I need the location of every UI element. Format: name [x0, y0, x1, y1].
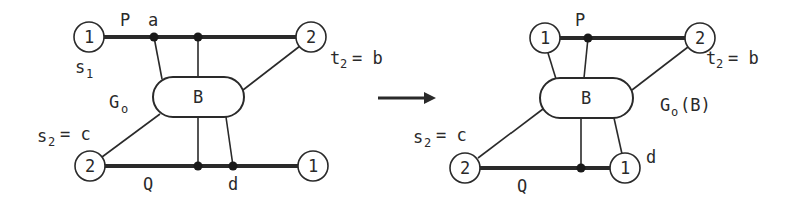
- left-graph: B 1 2 2 1 P a s 1 t 2 = b G o s 2 = c Q …: [37, 10, 383, 194]
- vertex-a-dot: [150, 33, 159, 42]
- terminal-node-s2-right-label: 2: [460, 158, 470, 178]
- label-p-right: P: [575, 10, 585, 30]
- terminal-node-s1-label: 1: [84, 27, 94, 47]
- edge-s1-to-block-right: [548, 53, 556, 79]
- label-d: d: [228, 174, 238, 194]
- terminal-node-t1-label: 1: [308, 156, 318, 176]
- label-s2-right: s: [413, 127, 423, 147]
- edge-p-dot-to-block-right: [584, 38, 588, 78]
- edge-block-to-d: [226, 117, 233, 166]
- label-s1: s: [75, 57, 85, 77]
- vertex-q-mid-dot: [194, 162, 203, 171]
- edge-s2-to-block: [102, 114, 160, 157]
- label-go: G: [109, 92, 119, 112]
- label-t2-sub: 2: [340, 57, 347, 71]
- vertex-p-dot-right: [584, 34, 593, 43]
- edge-t2-to-block-right: [632, 47, 688, 90]
- label-s2-sub: 2: [48, 135, 55, 149]
- label-t2: t: [330, 48, 340, 68]
- label-s1-sub: 1: [86, 67, 93, 81]
- terminal-node-t2-label: 2: [306, 27, 316, 47]
- label-go-b: G: [660, 95, 670, 115]
- edge-a-to-block: [154, 37, 162, 79]
- vertex-q-dot-right: [577, 164, 586, 173]
- label-go-b-sub: o: [671, 105, 678, 119]
- terminal-node-d-right-label: 1: [620, 158, 630, 178]
- label-s2-right-sub: 2: [424, 136, 431, 150]
- label-a: a: [148, 10, 158, 30]
- label-t2-right-eq: = b: [728, 48, 759, 68]
- vertex-p-mid-dot: [194, 33, 203, 42]
- terminal-node-t2-right-label: 2: [695, 28, 705, 48]
- label-s2-right-eq: = c: [436, 125, 467, 145]
- label-go-b-suffix: (B): [680, 95, 711, 115]
- label-s2: s: [37, 126, 47, 146]
- label-t2-right-sub: 2: [716, 57, 723, 71]
- terminal-node-s2-label: 2: [85, 156, 95, 176]
- label-t2-eq: = b: [352, 48, 383, 68]
- label-q: Q: [143, 174, 153, 194]
- block-b-right-label: B: [581, 88, 591, 108]
- graph-transformation-diagram: B 1 2 2 1 P a s 1 t 2 = b G o s 2 = c Q …: [0, 0, 805, 203]
- edge-block-to-d-right: [614, 118, 622, 154]
- label-go-sub: o: [121, 102, 128, 116]
- edge-t2-to-block: [243, 46, 300, 90]
- label-t2-right: t: [706, 48, 716, 68]
- arrow-head-icon: [424, 92, 436, 104]
- label-p: P: [120, 10, 130, 30]
- block-b-label: B: [193, 87, 203, 107]
- vertex-d-dot: [229, 162, 238, 171]
- terminal-node-s1-right-label: 1: [540, 28, 550, 48]
- edge-s2-to-block-right: [478, 109, 543, 158]
- label-d-right: d: [646, 147, 656, 167]
- label-q-right: Q: [517, 176, 527, 196]
- right-graph: B 1 2 2 1 P t 2 = b G o (B) s 2 = c Q d: [413, 10, 759, 196]
- label-s2-eq: = c: [60, 124, 91, 144]
- transform-arrow: [378, 92, 436, 104]
